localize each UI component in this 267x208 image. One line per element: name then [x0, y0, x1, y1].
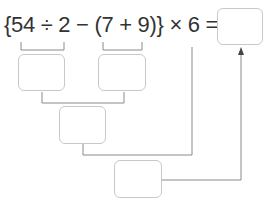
answer-box[interactable] — [217, 8, 263, 45]
bracket-subtract — [42, 92, 124, 103]
box-54-div-2[interactable] — [18, 54, 65, 91]
box-7-plus-9[interactable] — [98, 54, 146, 91]
box-difference[interactable] — [59, 106, 106, 144]
box-times-6[interactable] — [114, 160, 162, 198]
bracket-7-plus-9 — [103, 42, 142, 50]
bracket-54-div-2 — [21, 42, 64, 50]
line-to-answer — [162, 54, 241, 180]
arrow-up-icon — [238, 47, 244, 55]
